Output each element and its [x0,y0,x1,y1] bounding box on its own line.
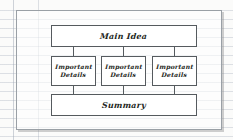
organizer-frame: Main Idea ImportantDetails ImportantDeta… [16,10,222,130]
connector-main-to-detail-3 [174,46,175,56]
important-details-box-1[interactable]: ImportantDetails [51,56,96,86]
main-idea-box[interactable]: Main Idea [51,25,197,47]
connector-main-to-detail-2 [123,46,124,56]
important-details-label-1: ImportantDetails [52,63,94,79]
notebook-page: Main Idea ImportantDetails ImportantDeta… [0,0,233,140]
important-details-label-3: ImportantDetails [153,63,195,79]
important-details-box-3[interactable]: ImportantDetails [152,56,197,86]
important-details-label-2: ImportantDetails [102,63,144,79]
connector-main-to-detail-1 [73,46,74,56]
summary-label: Summary [102,100,147,110]
summary-box[interactable]: Summary [51,94,197,116]
margin-line-left [13,0,14,140]
main-idea-label: Main Idea [100,31,148,41]
important-details-box-2[interactable]: ImportantDetails [101,56,146,86]
